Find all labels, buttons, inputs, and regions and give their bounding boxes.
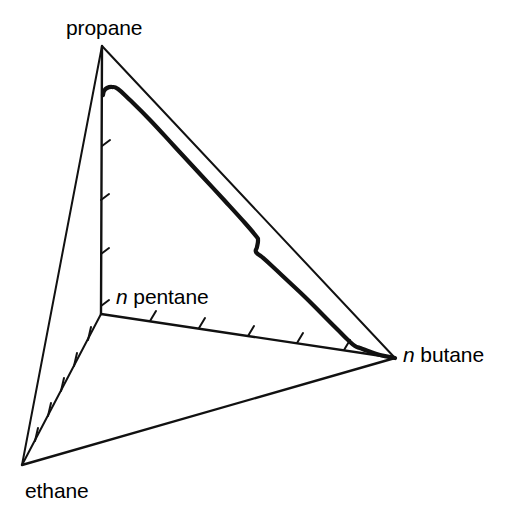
vertex-label-n-butane-prefix: n (403, 343, 415, 366)
tetrahedron-edges (22, 46, 395, 465)
vertex-label-ethane: ethane (25, 480, 89, 501)
vertex-label-n-pentane-text: pentane (128, 285, 209, 308)
vertex-label-n-butane: n butane (403, 344, 484, 365)
vertex-label-propane: propane (66, 17, 142, 38)
vertex-label-n-pentane: n pentane (116, 286, 209, 307)
quaternary-phase-diagram: propane ethane n pentane n butane (0, 0, 506, 515)
edge-propane-ethane (22, 46, 102, 465)
edge-propane-nbutane (102, 46, 395, 358)
vertex-label-n-butane-text: butane (415, 343, 484, 366)
edge-propane-npentane (101, 46, 102, 314)
tetrahedron-diagram-svg (0, 0, 506, 515)
tick-mark (297, 333, 303, 343)
phase-boundary-curve (103, 87, 395, 358)
tick-mark (102, 140, 110, 146)
vertex-label-propane-text: propane (66, 16, 142, 39)
tick-mark (248, 326, 254, 336)
edge-ethane-nbutane (22, 358, 395, 465)
tick-marks-npentane-nbutane-edge (150, 311, 350, 350)
tick-mark (150, 311, 156, 321)
vertex-label-ethane-text: ethane (25, 479, 89, 502)
tick-mark (199, 318, 205, 328)
vertex-label-n-pentane-prefix: n (116, 285, 128, 308)
